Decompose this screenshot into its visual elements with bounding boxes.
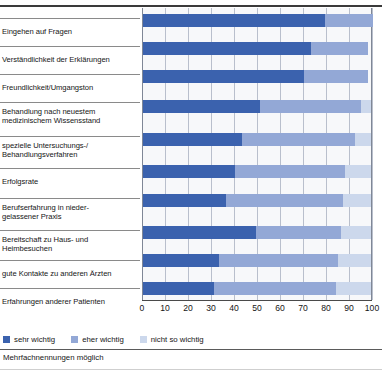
row-separator — [0, 102, 140, 103]
stacked-bar-chart: Eingehen auf FragenVerständlichkeit der … — [0, 8, 382, 300]
x-tick-label: 20 — [183, 303, 193, 313]
legend-label: nicht so wichtig — [151, 335, 204, 344]
x-tick-label: 80 — [321, 303, 331, 313]
legend-label: eher wichtig — [82, 335, 124, 344]
legend-swatch-icon — [3, 336, 10, 343]
legend-item-3[interactable]: nicht so wichtig — [140, 335, 204, 344]
category-label-line2: Behandlungsverfahren — [2, 150, 138, 159]
x-tick-label: 50 — [252, 303, 262, 313]
category-label-line2: Heimbesuchen — [2, 244, 138, 253]
x-axis: 0102030405060708090100 — [0, 300, 382, 316]
chart-row: Behandlung nach neuestemmedizinischem Wi… — [0, 102, 382, 136]
category-label: Verständlichkeit der Erklärungen — [2, 55, 138, 64]
row-separator — [0, 168, 140, 169]
category-label-line1: Behandlung nach neuestem — [2, 107, 95, 116]
category-label-line2: gelassener Praxis — [2, 212, 138, 221]
top-divider — [0, 5, 382, 7]
chart-row: Freundlichkeit/Umgangston — [0, 74, 382, 102]
chart-row: Bereitschaft zu Haus- undHeimbesuchen — [0, 230, 382, 260]
x-tick-label: 0 — [140, 303, 145, 313]
chart-row: Eingehen auf Fragen — [0, 18, 382, 46]
category-label-line1: gute Kontakte zu anderen Ärzten — [2, 269, 111, 278]
chart-row: Erfolgsrate — [0, 168, 382, 198]
chart-row: gute Kontakte zu anderen Ärzten — [0, 260, 382, 288]
row-separator — [0, 18, 140, 19]
x-tick-label: 70 — [298, 303, 308, 313]
category-label-line1: Berufserfahrung in nieder- — [2, 203, 89, 212]
category-labels: Eingehen auf FragenVerständlichkeit der … — [0, 8, 382, 300]
category-label: Bereitschaft zu Haus- undHeimbesuchen — [2, 235, 138, 254]
category-label-line1: spezielle Untersuchungs-/ — [2, 141, 88, 150]
row-separator — [0, 230, 140, 231]
chart-footnote: Mehrfachnennungen möglich — [3, 353, 104, 362]
legend-item-1[interactable]: sehr wichtig — [3, 335, 55, 344]
category-label: gute Kontakte zu anderen Ärzten — [2, 269, 138, 278]
category-label: Berufserfahrung in nieder-gelassener Pra… — [2, 203, 138, 222]
x-tick-label: 100 — [365, 303, 379, 313]
category-label-line1: Verständlichkeit der Erklärungen — [2, 55, 110, 64]
category-label: spezielle Untersuchungs-/Behandlungsverf… — [2, 141, 138, 160]
row-separator — [0, 136, 140, 137]
category-label: Freundlichkeit/Umgangston — [2, 83, 138, 92]
legend-swatch-icon — [140, 336, 147, 343]
category-label-line1: Erfolgsrate — [2, 177, 38, 186]
category-label-line1: Eingehen auf Fragen — [2, 27, 72, 36]
row-separator — [0, 74, 140, 75]
row-separator — [0, 198, 140, 199]
legend-divider — [0, 349, 382, 350]
chart-row: Berufserfahrung in nieder-gelassener Pra… — [0, 198, 382, 230]
chart-legend: sehr wichtigeher wichtignicht so wichtig — [0, 332, 382, 346]
row-separator — [0, 260, 140, 261]
x-tick-label: 10 — [160, 303, 170, 313]
category-label: Eingehen auf Fragen — [2, 27, 138, 36]
x-axis-line — [142, 300, 372, 301]
row-separator — [0, 46, 140, 47]
x-tick-label: 90 — [344, 303, 354, 313]
bottom-divider — [0, 369, 382, 370]
legend-item-2[interactable]: eher wichtig — [71, 335, 124, 344]
chart-row: spezielle Untersuchungs-/Behandlungsverf… — [0, 136, 382, 168]
category-label-line1: Freundlichkeit/Umgangston — [2, 83, 93, 92]
category-label-line2: medizinischem Wissensstand — [2, 116, 138, 125]
x-tick-label: 40 — [229, 303, 239, 313]
chart-row: Verständlichkeit der Erklärungen — [0, 46, 382, 74]
x-tick-label: 30 — [206, 303, 216, 313]
legend-label: sehr wichtig — [14, 335, 55, 344]
row-separator — [0, 288, 140, 289]
x-tick-label: 60 — [275, 303, 285, 313]
category-label: Erfolgsrate — [2, 177, 138, 186]
category-label-line1: Bereitschaft zu Haus- und — [2, 235, 88, 244]
legend-swatch-icon — [71, 336, 78, 343]
category-label: Behandlung nach neuestemmedizinischem Wi… — [2, 107, 138, 126]
